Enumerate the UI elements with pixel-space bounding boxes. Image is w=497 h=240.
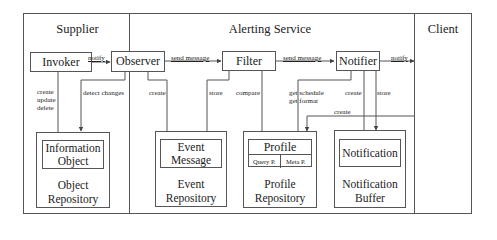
notifier-box[interactable]: Notifier: [336, 51, 380, 71]
profile-repository[interactable]: Profile Query P. Meta P. Profile Reposit…: [243, 131, 317, 208]
profile[interactable]: Profile Query P. Meta P.: [248, 139, 312, 167]
notification-buffer[interactable]: Notification Notification Buffer: [334, 130, 406, 208]
label-compare: compare: [236, 89, 260, 97]
label-observer-create: create: [149, 89, 166, 97]
label-observer-send-message: send message: [171, 54, 209, 62]
event-message[interactable]: Event Message: [160, 139, 222, 168]
object-repository-label: Object Repository: [37, 178, 109, 206]
label-detect-changes: detect changes: [83, 89, 124, 97]
label-filter-store: store: [209, 89, 223, 97]
label-notifier-store: store: [377, 89, 391, 97]
label-create: create: [37, 88, 54, 96]
object-repository[interactable]: Information Object Object Repository: [36, 132, 110, 208]
label-delete: delete: [37, 104, 54, 112]
information-object[interactable]: Information Object: [42, 140, 104, 169]
label-filter-send-message: send message: [283, 54, 321, 62]
filter-box[interactable]: Filter: [222, 51, 276, 71]
label-notifier-create: create: [345, 89, 362, 97]
profile-repository-label: Profile Repository: [244, 177, 316, 205]
label-notifier-notify: notify: [391, 54, 408, 62]
label-get-format: get format: [289, 97, 318, 105]
label-invoker-notify: notify: [88, 54, 105, 62]
notification[interactable]: Notification: [339, 139, 401, 167]
label-update: update: [37, 96, 56, 104]
event-repository-label: Event Repository: [156, 177, 226, 205]
observer-box[interactable]: Observer: [111, 51, 165, 72]
notification-buffer-label: Notification Buffer: [335, 177, 405, 205]
label-get-schedule: get schedule: [289, 89, 324, 97]
invoker-box[interactable]: Invoker: [30, 52, 92, 72]
meta-profile[interactable]: Meta P.: [281, 155, 312, 168]
query-profile[interactable]: Query P.: [249, 155, 281, 168]
label-client-create: create: [334, 108, 351, 116]
event-repository[interactable]: Event Message Event Repository: [155, 131, 227, 207]
